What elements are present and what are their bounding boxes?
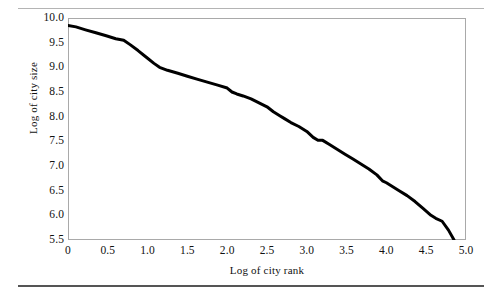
x-tick-label: 1.5 xyxy=(167,245,207,257)
plot-line-series xyxy=(68,18,466,240)
rank-size-curve xyxy=(68,25,454,240)
y-tick-label: 6.0 xyxy=(24,209,64,221)
x-tick-label: 3.0 xyxy=(287,245,327,257)
x-axis-title: Log of city rank xyxy=(68,264,466,276)
x-tick-label: 4.5 xyxy=(406,245,446,257)
x-tick-label: 5.0 xyxy=(446,245,486,257)
x-tick-label: 2.5 xyxy=(247,245,287,257)
y-tick-label: 6.5 xyxy=(24,185,64,197)
x-tick-label: 3.5 xyxy=(327,245,367,257)
chart-area: 5.56.06.57.07.58.08.59.09.510.0 00.51.01… xyxy=(0,0,502,297)
x-tick-label: 0 xyxy=(48,245,88,257)
figure: 5.56.06.57.07.58.08.59.09.510.0 00.51.01… xyxy=(0,0,502,297)
x-axis-tick-labels: 00.51.01.52.02.53.03.54.04.55.0 xyxy=(68,245,466,263)
x-tick-label: 1.0 xyxy=(128,245,168,257)
x-tick-label: 4.0 xyxy=(366,245,406,257)
x-tick-label: 0.5 xyxy=(88,245,128,257)
y-tick-label: 5.5 xyxy=(24,234,64,246)
y-axis-title: Log of city size xyxy=(27,18,39,178)
bottom-divider-rule xyxy=(18,285,484,287)
x-tick-label: 2.0 xyxy=(207,245,247,257)
